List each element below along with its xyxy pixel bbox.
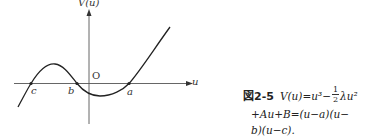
figure-number: 図2-5 — [243, 90, 274, 103]
root-point-a — [127, 82, 130, 85]
fraction-one-half: 12 — [332, 85, 339, 104]
root-label-c: c — [31, 85, 37, 96]
plot-svg — [0, 0, 200, 137]
cubic-curve — [18, 27, 170, 107]
origin-label: O — [92, 70, 100, 81]
y-axis-arrow-icon — [87, 9, 92, 16]
root-point-b — [75, 82, 78, 85]
caption-line-2: +Au+B=(u−a)(u− — [243, 106, 377, 122]
equation-part-1: V(u)=u³− — [280, 90, 331, 102]
equation-part-2: λu² — [340, 90, 358, 102]
caption-line-1: 図2-5V(u)=u³−12λu² — [243, 87, 377, 106]
y-axis-label: V(u) — [78, 0, 99, 8]
root-label-a: a — [127, 86, 133, 97]
cubic-potential-plot: V(u) O u c b a — [0, 0, 200, 137]
x-axis-label: u — [192, 76, 198, 87]
root-label-b: b — [68, 85, 74, 96]
fraction-denominator: 2 — [332, 95, 339, 104]
figure-caption: 図2-5V(u)=u³−12λu² +Au+B=(u−a)(u− b)(u−c)… — [243, 87, 377, 137]
fraction-numerator: 1 — [332, 85, 339, 95]
caption-line-3: b)(u−c). — [243, 122, 377, 137]
